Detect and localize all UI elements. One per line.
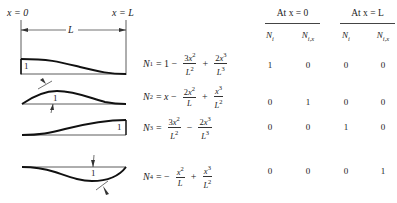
unit-label-n2: 1 <box>53 93 58 103</box>
equation-n4: N4 = − x2L + x3L2 <box>143 163 215 190</box>
col-header-ni-L: Ni <box>336 30 356 42</box>
cell: 0 <box>260 97 280 107</box>
cell: 0 <box>336 60 356 70</box>
cell: 0 <box>260 166 280 176</box>
cell: 0 <box>298 166 318 176</box>
header-rule-right <box>340 23 395 24</box>
equation-n2: N2 = x − 2x2L + x3L2 <box>143 83 227 110</box>
cell: 1 <box>260 60 280 70</box>
equation-n1: N1 = 1 − 3x2L2 + 2x3L3 <box>143 50 230 77</box>
cell: 0 <box>298 60 318 70</box>
cell: 1 <box>298 97 318 107</box>
equation-n3: N3 = 3x2L2 − 2x3L3 <box>143 114 215 141</box>
header-at-x-0: At x = 0 <box>265 8 320 18</box>
cell: 0 <box>373 122 393 132</box>
cell: 0 <box>260 122 280 132</box>
unit-label-n4: 1 <box>91 168 96 178</box>
header-at-x-L: At x = L <box>340 8 395 18</box>
col-header-nix-L: Ni,x <box>373 30 393 42</box>
cell: 0 <box>373 60 393 70</box>
cell: 1 <box>336 122 356 132</box>
cell: 0 <box>336 97 356 107</box>
header-rule-left <box>265 23 320 24</box>
cell: 1 <box>373 166 393 176</box>
cell: 0 <box>373 97 393 107</box>
col-header-nix-0: Ni,x <box>298 30 318 42</box>
col-header-ni-0: Ni <box>260 30 280 42</box>
unit-label-n3: 1 <box>117 122 122 132</box>
span-label: L <box>68 24 74 35</box>
unit-label-n1: 1 <box>24 61 29 71</box>
cell: 0 <box>298 122 318 132</box>
cell: 0 <box>336 166 356 176</box>
